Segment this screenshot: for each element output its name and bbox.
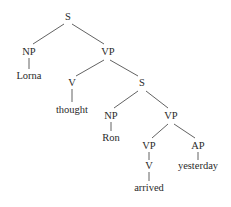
tree-nodes: SNPLornaVPVthoughtSNPRonVPVPVarrivedAPye… (16, 11, 218, 193)
tree-node-vp2: VP (164, 110, 178, 121)
tree-node-v1: V (68, 77, 76, 88)
tree-node-np2: NP (104, 110, 118, 121)
syntax-tree: SNPLornaVPVthoughtSNPRonVPVPVarrivedAPye… (0, 0, 231, 207)
tree-node-np1: NP (22, 46, 36, 57)
tree-edge-s1-np1 (33, 24, 64, 44)
tree-edge-vp1-v1 (76, 60, 104, 76)
tree-node-vp1: VP (101, 46, 115, 57)
tree-node-s2: S (139, 77, 145, 88)
tree-edge-vp2-ap (174, 124, 195, 138)
tree-edge-s2-vp2 (146, 91, 168, 108)
tree-node-s1: S (65, 11, 71, 22)
tree-edge-s1-vp1 (72, 24, 104, 44)
tree-edge-s2-np2 (114, 91, 138, 108)
tree-node-ron: Ron (102, 132, 120, 143)
tree-node-yesterday: yesterday (178, 160, 219, 171)
tree-edge-vp1-s2 (110, 60, 138, 76)
tree-node-v2: V (145, 160, 153, 171)
tree-node-thought: thought (56, 104, 88, 115)
tree-node-arrived: arrived (134, 182, 164, 193)
tree-node-ap: AP (191, 140, 205, 151)
tree-node-lorna: Lorna (16, 70, 41, 81)
tree-edge-vp2-vp3 (152, 124, 168, 138)
tree-node-vp3: VP (142, 140, 156, 151)
